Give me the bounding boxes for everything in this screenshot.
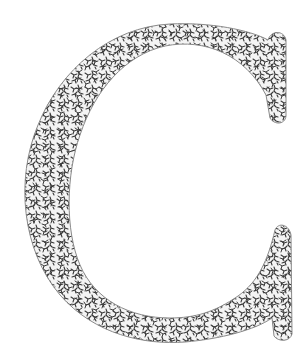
textured-letter-c-graphic — [0, 0, 308, 363]
decorative-letter-c: C — [0, 0, 308, 363]
texture-fill — [0, 0, 308, 363]
